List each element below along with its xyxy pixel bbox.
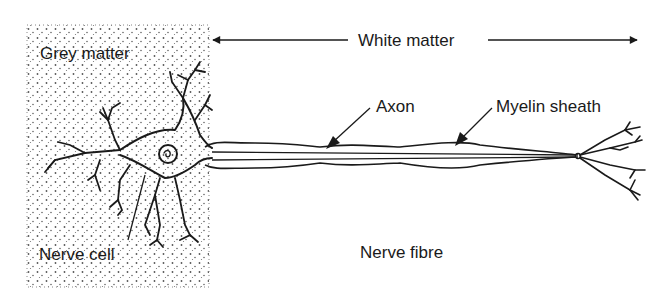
myelin-sheath-pointer bbox=[455, 108, 492, 146]
neuron-diagram: Grey matter White matter Axon Myelin she… bbox=[0, 0, 672, 297]
nerve-fibre bbox=[205, 142, 581, 168]
axon-pointer bbox=[326, 108, 370, 149]
nerve-fibre-label: Nerve fibre bbox=[360, 244, 443, 261]
nerve-cell-label: Nerve cell bbox=[39, 246, 115, 263]
axon-label: Axon bbox=[376, 98, 415, 115]
grey-matter-label: Grey matter bbox=[40, 45, 130, 62]
white-matter-label: White matter bbox=[358, 32, 454, 49]
axon-terminals bbox=[580, 122, 645, 200]
myelin-sheath-label: Myelin sheath bbox=[496, 98, 601, 115]
